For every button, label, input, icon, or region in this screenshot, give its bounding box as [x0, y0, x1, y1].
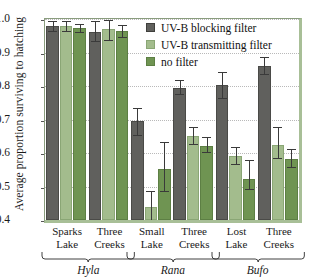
legend-item: no filter [146, 54, 272, 69]
error-bar [236, 147, 237, 164]
legend-swatch-icon [146, 57, 155, 66]
error-cap-upper [91, 21, 100, 22]
bar [173, 88, 186, 220]
legend-label: no filter [161, 56, 198, 68]
bar [46, 26, 59, 220]
error-cap-upper [231, 147, 240, 148]
chart-root: Average proportion surviving to hatching… [0, 0, 316, 277]
y-axis-title: Average proportion surviving to hatching [13, 9, 25, 219]
bar [73, 28, 86, 220]
error-cap-upper [104, 20, 113, 21]
error-cap-upper [189, 127, 198, 128]
bar [60, 26, 73, 220]
bar [258, 66, 271, 220]
error-cap-upper [133, 108, 142, 109]
error-cap-lower [104, 40, 113, 41]
legend-label: UV-B transmitting filter [161, 39, 272, 51]
error-cap-lower [260, 74, 269, 75]
bar [116, 31, 129, 220]
group-brace-icon [126, 252, 220, 263]
x-axis-label-line2: Creeks [247, 238, 311, 251]
error-cap-upper [48, 21, 57, 22]
error-cap-lower [75, 32, 84, 33]
error-cap-upper [245, 160, 254, 161]
genus-label: Rana [126, 264, 220, 276]
bar [229, 156, 242, 220]
error-cap-lower [118, 37, 127, 38]
bar [131, 121, 144, 220]
legend-item: UV-B transmitting filter [146, 37, 272, 52]
error-cap-lower [273, 158, 282, 159]
x-axis-label: ThreeCreeks [247, 225, 311, 250]
x-axis-label-line1: Three [247, 225, 311, 238]
error-bar [137, 108, 138, 135]
bar [89, 32, 102, 220]
bar [187, 136, 200, 220]
error-cap-lower [218, 98, 227, 99]
legend-label: UV-B blocking filter [161, 22, 256, 34]
error-cap-lower [48, 31, 57, 32]
error-cap-upper [62, 21, 71, 22]
error-cap-upper [273, 127, 282, 128]
error-bar [53, 21, 54, 31]
error-bar [80, 24, 81, 32]
error-cap-lower [231, 164, 240, 165]
group-brace-icon [211, 252, 305, 263]
error-cap-upper [146, 191, 155, 192]
error-bar [66, 21, 67, 31]
genus-label: Hyla [41, 264, 135, 276]
error-bar [249, 160, 250, 188]
bar [285, 159, 298, 220]
error-bar [180, 80, 181, 94]
error-cap-upper [118, 25, 127, 26]
error-cap-lower [62, 31, 71, 32]
error-cap-lower [287, 167, 296, 168]
error-cap-lower [133, 135, 142, 136]
error-bar [95, 21, 96, 41]
error-cap-lower [91, 41, 100, 42]
bar [102, 29, 115, 220]
error-cap-upper [202, 137, 211, 138]
bar [216, 85, 229, 220]
group-brace-icon [41, 252, 135, 263]
error-bar [278, 127, 279, 158]
error-bar [222, 72, 223, 98]
genus-label: Bufo [211, 264, 305, 276]
chart-legend: UV-B blocking filterUV-B transmitting fi… [146, 20, 272, 71]
legend-swatch-icon [146, 23, 155, 32]
error-cap-lower [189, 144, 198, 145]
error-cap-lower [202, 152, 211, 153]
bar [200, 146, 213, 220]
error-cap-upper [75, 24, 84, 25]
error-bar [207, 137, 208, 152]
error-cap-upper [175, 80, 184, 81]
error-cap-lower [175, 94, 184, 95]
error-bar [164, 142, 165, 191]
error-bar [193, 127, 194, 144]
legend-item: UV-B blocking filter [146, 20, 272, 35]
error-bar [109, 20, 110, 40]
error-bar [291, 149, 292, 167]
error-cap-upper [160, 142, 169, 143]
error-cap-lower [245, 189, 254, 190]
legend-swatch-icon [146, 40, 155, 49]
error-cap-upper [218, 72, 227, 73]
error-cap-upper [287, 149, 296, 150]
error-bar [151, 191, 152, 220]
error-cap-lower [160, 191, 169, 192]
error-bar [122, 25, 123, 38]
